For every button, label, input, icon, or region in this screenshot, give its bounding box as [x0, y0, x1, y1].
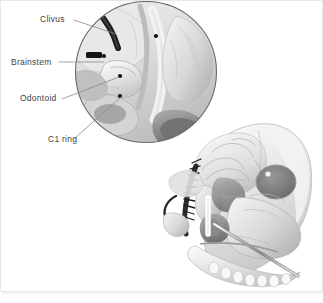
- magnified-inset: [72, 0, 220, 150]
- brainstem-structure: [86, 52, 102, 58]
- brainstem-marker-dot: [102, 54, 106, 58]
- cavity-depth: [160, 118, 200, 142]
- label-odontoid: Odontoid: [20, 93, 57, 103]
- label-c1-ring: C1 ring: [48, 134, 77, 144]
- clivus-marker-dot: [154, 34, 158, 38]
- anatomical-illustration-canvas: [0, 0, 323, 303]
- illustration-figure: Clivus Brainstem Odontoid C1 ring: [0, 0, 323, 303]
- lateral-mass-right: [163, 16, 213, 102]
- label-clivus: Clivus: [40, 14, 65, 24]
- figure-baseline-shadow: [2, 291, 321, 295]
- orbit-highlight: [265, 171, 270, 176]
- label-brainstem: Brainstem: [11, 57, 52, 67]
- posterior-bone: [169, 171, 203, 197]
- sagittal-skull-cutaway: [163, 124, 311, 287]
